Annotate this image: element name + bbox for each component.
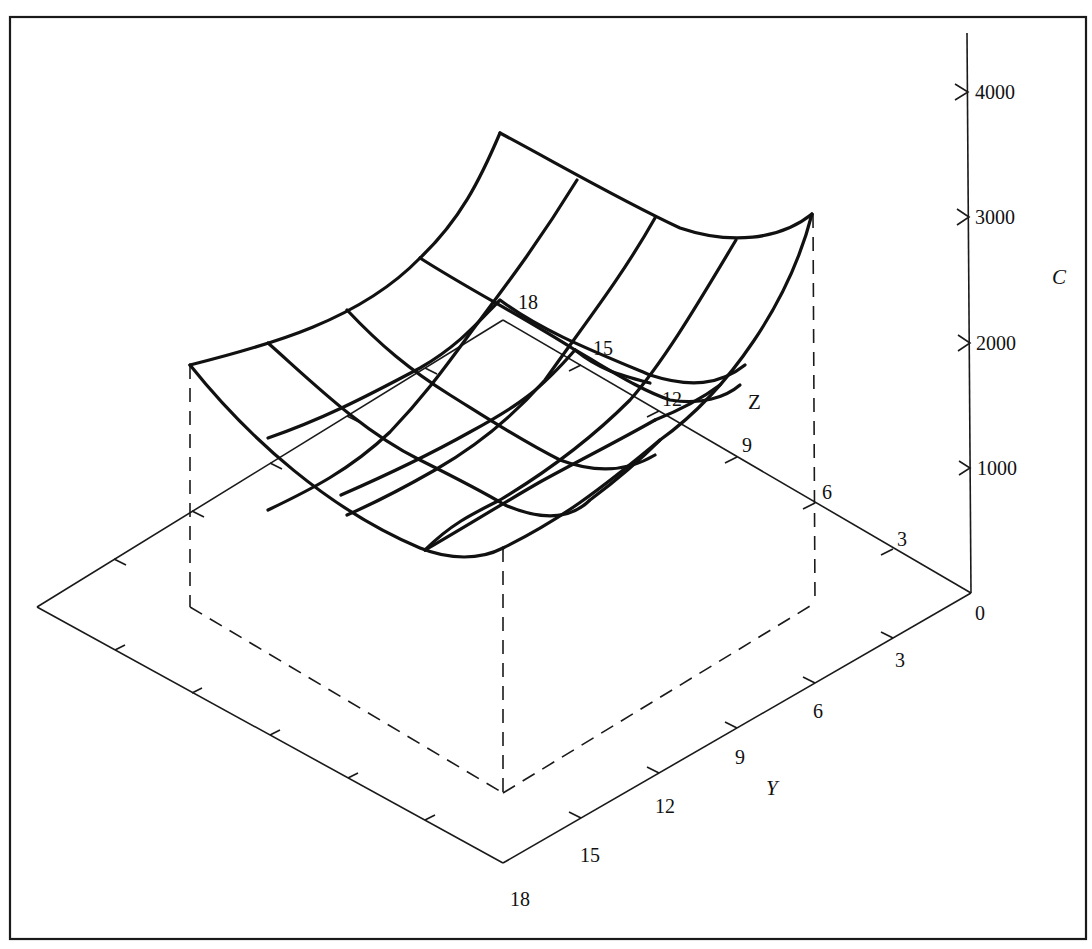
- c-tick-4000: 4000: [975, 81, 1015, 103]
- y-tick-18: 18: [510, 888, 530, 910]
- z-tick-18: 18: [518, 291, 538, 313]
- z-tick-3: 3: [897, 528, 907, 550]
- c-axis: 4000 3000 2000 1000 C 0: [955, 33, 1067, 624]
- c-tick-2000: 2000: [976, 332, 1016, 354]
- y-tick-6: 6: [813, 700, 823, 722]
- cost-surface: [190, 133, 812, 557]
- c-tick-1000: 1000: [977, 457, 1017, 479]
- origin-label: 0: [975, 602, 985, 624]
- floor-plane: 3 6 9 12 15 18 Z 3 6 9 12 15 18 Y: [37, 291, 971, 910]
- c-tick-3000: 3000: [975, 206, 1015, 228]
- y-tick-9: 9: [735, 746, 745, 768]
- z-tick-9: 9: [742, 434, 752, 456]
- y-tick-15: 15: [580, 844, 600, 866]
- y-tick-12: 12: [655, 795, 675, 817]
- z-axis: [503, 320, 971, 593]
- y-axis-label: Y: [766, 776, 780, 800]
- z-tick-6: 6: [822, 481, 832, 503]
- surface-figure: 4000 3000 2000 1000 C 0: [0, 0, 1092, 949]
- c-axis-label: C: [1052, 265, 1067, 289]
- y-tick-3: 3: [895, 649, 905, 671]
- z-axis-label: Z: [748, 390, 761, 414]
